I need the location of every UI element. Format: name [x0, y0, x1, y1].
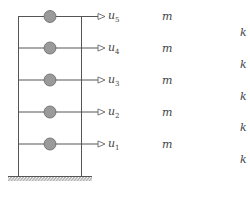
stiffness-label-3: k	[240, 91, 247, 102]
floor-3	[19, 74, 106, 86]
floor-4	[19, 42, 106, 54]
disp-label-u1: u1	[108, 138, 120, 154]
arrow-head-icon	[98, 77, 105, 83]
floor-5	[19, 11, 106, 23]
arrow-head-icon	[98, 109, 105, 115]
disp-label-u5: u5	[108, 10, 120, 26]
mass-icon	[44, 42, 56, 54]
disp-label-u4: u4	[108, 42, 120, 58]
ground-hatch	[8, 177, 92, 181]
frame-drawing	[0, 0, 250, 199]
arrow-head-icon	[98, 141, 105, 147]
disp-label-u2: u2	[108, 106, 120, 122]
mass-icon	[44, 106, 56, 118]
disp-label-u3: u3	[108, 74, 120, 90]
mass-icon	[44, 74, 56, 86]
mass-label-3: m	[162, 75, 172, 86]
stiffness-label-5: k	[240, 27, 247, 38]
arrow-head-icon	[98, 45, 105, 51]
mass-label-4: m	[162, 43, 172, 54]
mass-label-1: m	[162, 139, 172, 150]
mass-label-2: m	[162, 107, 172, 118]
floor-2	[19, 106, 106, 118]
arrow-head-icon	[98, 14, 105, 20]
mass-icon	[44, 138, 56, 150]
stiffness-label-2: k	[240, 122, 247, 133]
stiffness-label-4: k	[240, 59, 247, 70]
mass-icon	[44, 11, 56, 23]
stiffness-label-1: k	[240, 154, 247, 165]
floor-1	[19, 138, 106, 150]
mass-label-5: m	[162, 11, 172, 22]
